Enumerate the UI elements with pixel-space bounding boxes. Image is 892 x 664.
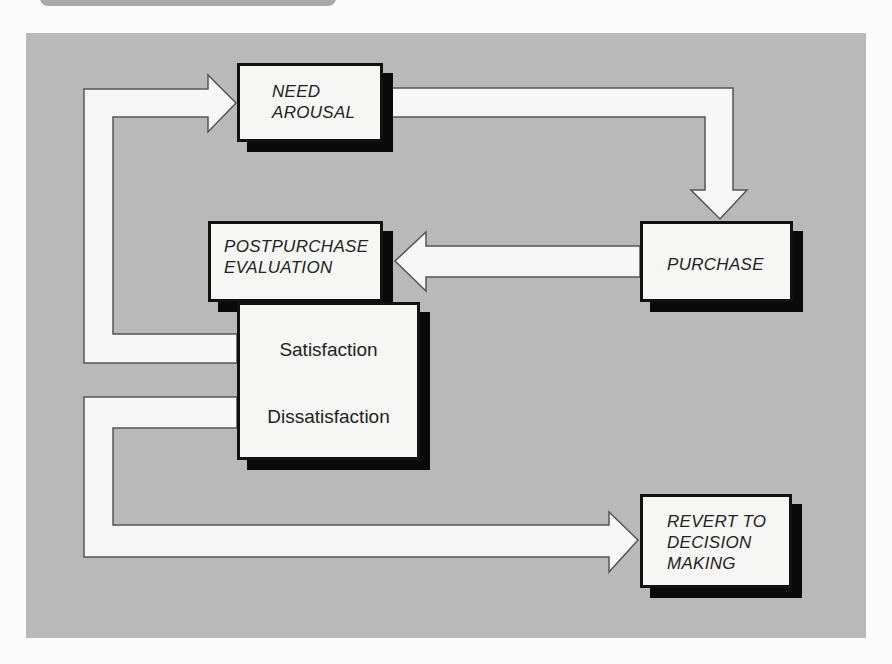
node-purchase-label: PURCHASE: [667, 254, 764, 275]
node-postpurchase-evaluation: POSTPURCHASE EVALUATION: [208, 221, 383, 302]
arrow-satisfaction-to-need-arousal: [84, 75, 237, 363]
node-postpurchase-evaluation-label: POSTPURCHASE EVALUATION: [224, 236, 368, 278]
outcome-dissatisfaction-label: Dissatisfaction: [240, 406, 417, 428]
node-revert-to-decision-making: REVERT TO DECISION MAKING: [640, 494, 792, 588]
node-purchase: PURCHASE: [640, 221, 793, 302]
node-need-arousal-label: NEED AROUSAL: [272, 81, 355, 123]
outcome-satisfaction-label: Satisfaction: [240, 339, 417, 361]
node-revert-label: REVERT TO DECISION MAKING: [667, 511, 766, 574]
arrow-purchase-to-postpurchase: [395, 232, 640, 291]
arrow-need-arousal-to-purchase: [383, 88, 747, 219]
page: NEED AROUSAL PURCHASE POSTPURCHASE EVALU…: [0, 0, 892, 664]
node-outcomes: Satisfaction Dissatisfaction: [237, 302, 420, 460]
node-need-arousal: NEED AROUSAL: [237, 63, 383, 142]
